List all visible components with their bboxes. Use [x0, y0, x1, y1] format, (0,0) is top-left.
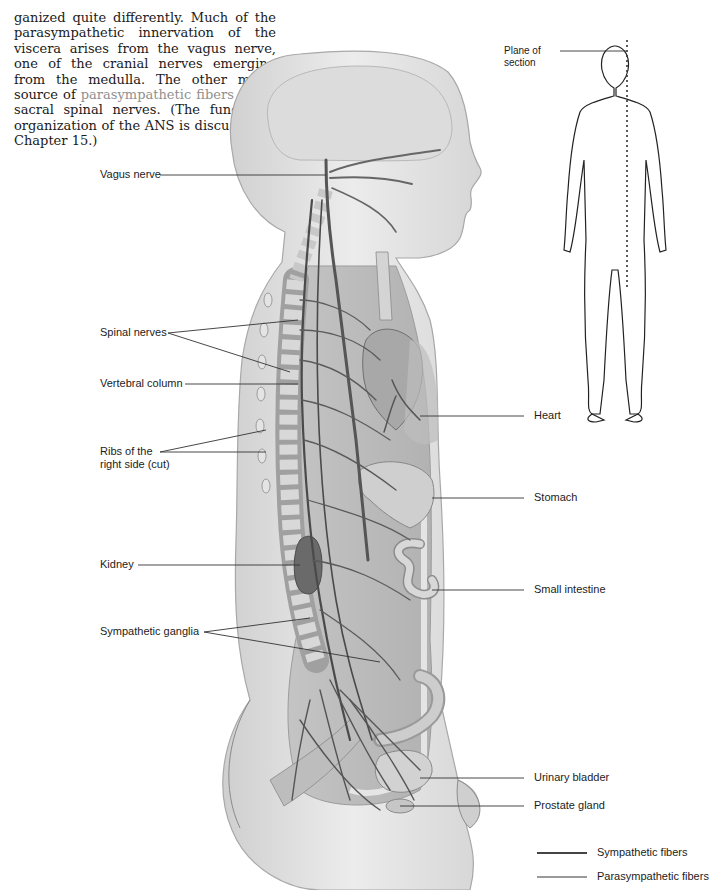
label-prostate-gland: Prostate gland — [534, 799, 605, 812]
label-kidney: Kidney — [100, 558, 134, 571]
label-urinary-bladder: Urinary bladder — [534, 771, 609, 784]
label-spinal-nerves: Spinal nerves — [100, 326, 167, 339]
label-ribs: Ribs of the right side (cut) — [100, 445, 170, 471]
label-plane-line2: section — [504, 57, 541, 69]
label-sympathetic-ganglia: Sympathetic ganglia — [100, 625, 199, 638]
plane-of-section-inset — [564, 46, 666, 422]
legend-sympathetic-label: Sympathetic fibers — [597, 846, 687, 858]
label-stomach: Stomach — [534, 491, 577, 504]
label-small-intestine: Small intestine — [534, 583, 606, 596]
legend-parasympathetic-label: Parasympathetic fibers — [597, 870, 709, 882]
label-vertebral-column: Vertebral column — [100, 377, 183, 390]
label-plane-line1: Plane of — [504, 45, 541, 57]
label-ribs-line2: right side (cut) — [100, 458, 170, 471]
label-ribs-line1: Ribs of the — [100, 445, 170, 458]
label-plane-of-section: Plane of section — [504, 45, 541, 69]
label-vagus-nerve: Vagus nerve — [100, 168, 161, 181]
label-heart: Heart — [534, 409, 561, 422]
